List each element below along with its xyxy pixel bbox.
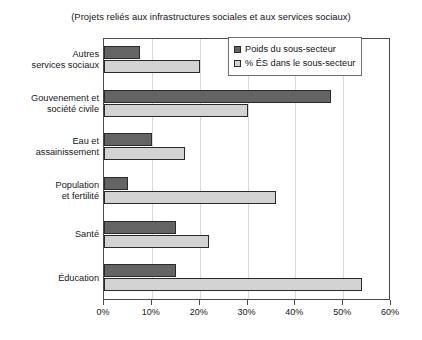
legend-swatch-icon [234, 60, 241, 67]
legend-label: Poids du sous-secteur [245, 44, 336, 55]
y-axis-category-labels: Autres services sociauxGouvenement et so… [0, 38, 99, 300]
bar-weight [104, 90, 331, 103]
x-tick-label: 0% [96, 306, 109, 318]
x-tick [151, 300, 152, 305]
legend-entry: % ÉS dans le sous-secteur [234, 56, 355, 70]
plot-area [103, 38, 390, 300]
legend-swatch-icon [234, 46, 241, 53]
bar-group [104, 126, 389, 170]
x-tick-label: 30% [237, 306, 255, 318]
legend-entry: Poids du sous-secteur [234, 42, 355, 56]
category-label: Éducation [3, 273, 99, 284]
bar-weight [104, 46, 140, 59]
bar-weight [104, 264, 176, 277]
x-tick [390, 300, 391, 305]
x-tick [103, 300, 104, 305]
x-tick-label: 40% [285, 306, 303, 318]
x-tick [247, 300, 248, 305]
bar-weight [104, 177, 128, 190]
x-tick [199, 300, 200, 305]
bar-weight [104, 221, 176, 234]
category-label: Santé [3, 229, 99, 240]
bar-group [104, 170, 389, 214]
category-label: Autres services sociaux [3, 49, 99, 71]
x-tick-label: 10% [142, 306, 160, 318]
bar-group [104, 257, 389, 300]
bar-share [104, 278, 362, 291]
legend-label: % ÉS dans le sous-secteur [245, 58, 355, 69]
x-tick [294, 300, 295, 305]
category-label: Gouvenement et société civile [3, 93, 99, 115]
bar-share [104, 60, 200, 73]
bar-share [104, 191, 276, 204]
chart-legend: Poids du sous-secteur% ÉS dans le sous-s… [228, 37, 362, 76]
bar-share [104, 235, 209, 248]
x-tick-label: 50% [333, 306, 351, 318]
x-axis-tick-labels: 0%10%20%30%40%50%60% [0, 306, 422, 322]
x-tick [342, 300, 343, 305]
bar-chart: (Projets reliés aux infrastructures soci… [0, 0, 422, 340]
bar-group [104, 214, 389, 258]
category-label: Population et fertilité [3, 180, 99, 202]
bar-weight [104, 133, 152, 146]
bar-share [104, 147, 185, 160]
bar-group [104, 83, 389, 127]
chart-title: (Projets reliés aux infrastructures soci… [0, 11, 422, 23]
x-tick-label: 60% [381, 306, 399, 318]
bar-share [104, 104, 248, 117]
category-label: Eau et assainissement [3, 136, 99, 158]
x-tick-label: 20% [190, 306, 208, 318]
